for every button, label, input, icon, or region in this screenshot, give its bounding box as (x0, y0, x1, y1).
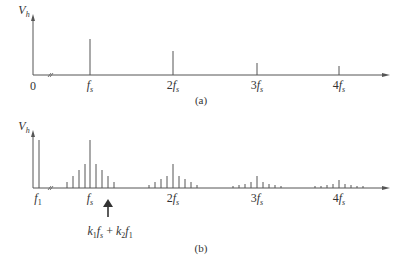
panel-a-caption: (a) (195, 94, 207, 106)
panel-b-tick-2fs: 2fs (167, 191, 179, 207)
panel-b-annotation-label: k1fs + k2f1 (87, 224, 132, 240)
panel-b-cluster-3fs (233, 176, 281, 188)
panel-b-annotation-arrow-icon (103, 199, 113, 217)
panel-b-cluster-2fs (149, 164, 197, 188)
panel-b-tick-fs: fs (87, 191, 93, 207)
panel-b-caption: (b) (195, 242, 208, 254)
panel-a-tick-3fs: 3fs (251, 78, 263, 94)
panel-a-x-arrow-icon (382, 73, 390, 77)
panel-a-y-label: Vh (18, 3, 29, 19)
panel-b-tick-4fs: 4fs (333, 191, 345, 207)
panel-a-plot (31, 14, 390, 77)
panel-a-tick-4fs: 4fs (333, 78, 345, 94)
panel-a-y-arrow-icon (31, 14, 35, 21)
panel-a-tick-fs: fs (87, 78, 93, 94)
panel-b-x-arrow-icon (382, 186, 390, 190)
panel-b-tick-3fs: 3fs (251, 191, 263, 207)
panel-b-tick-f1: f1 (34, 191, 41, 207)
panel-b-cluster-fs (67, 140, 114, 188)
panel-b-y-arrow-icon (31, 130, 35, 137)
panel-b-y-label: Vh (18, 119, 29, 135)
panel-b-cluster-4fs (315, 180, 363, 188)
panel-a-tick-2fs: 2fs (167, 78, 179, 94)
panel-a-origin-label: 0 (30, 79, 36, 94)
spectrum-diagram (0, 0, 402, 265)
